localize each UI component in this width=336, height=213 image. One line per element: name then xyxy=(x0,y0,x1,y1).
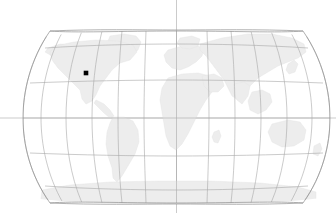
world-map-canvas xyxy=(0,0,336,213)
location-marker[interactable] xyxy=(84,71,89,76)
location-marker-dot[interactable] xyxy=(84,71,89,76)
world-map-figure xyxy=(0,0,336,213)
